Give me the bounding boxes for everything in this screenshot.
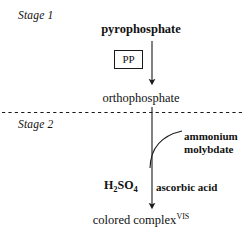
node-colored-complex: colored complexVIS — [0, 213, 246, 228]
node-pyrophosphate: pyrophosphate — [0, 22, 246, 37]
reagent-h2so4-h: H — [104, 178, 113, 192]
reagent-ammonium-molybdate: ammonium molybdate — [184, 130, 238, 155]
arrow-reagent-curve — [150, 131, 182, 168]
reagent-h2so4-sub2: 4 — [134, 184, 138, 194]
enzyme-box-pp-label: PP — [122, 54, 134, 65]
reagent-ammonium-molybdate-line1: ammonium — [184, 130, 238, 143]
stage-1-label: Stage 1 — [18, 9, 54, 21]
node-colored-complex-label: colored complex — [93, 213, 177, 227]
node-colored-complex-superscript: VIS — [176, 212, 189, 221]
stage-2-label: Stage 2 — [18, 118, 54, 130]
enzyme-box-pp: PP — [114, 50, 143, 69]
node-orthophosphate: orthophosphate — [0, 91, 246, 106]
reagent-h2so4-so: SO — [118, 178, 134, 192]
reagent-ammonium-molybdate-line2: molybdate — [184, 143, 238, 156]
reagent-h2so4-sub1: 2 — [113, 184, 117, 194]
reaction-flow-diagram: Stage 1 Stage 2 pyrophosphate PP orthoph… — [0, 0, 246, 242]
reagent-ascorbic-acid: ascorbic acid — [156, 181, 217, 194]
reagent-h2so4: H2SO4 — [104, 179, 138, 193]
